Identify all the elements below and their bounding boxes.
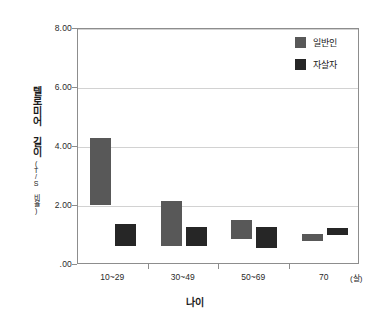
x-axis-tick-label: 30~49: [171, 272, 195, 282]
chart-legend: 일반인자살자: [295, 36, 337, 71]
x-axis-tick-label: 70: [319, 272, 328, 282]
x-axis-tick-label: 10~29: [100, 272, 124, 282]
bar-suicide-0: [115, 224, 136, 246]
legend-label: 일반인: [313, 36, 337, 49]
x-axis-tick-mark: [289, 264, 290, 269]
legend-item: 자살자: [295, 58, 337, 71]
y-axis-tick-mark: [72, 87, 77, 88]
chart-figure: .002.004.006.008.00 텔로미어 길이 (T/S 비율) 10~…: [0, 0, 389, 333]
y-axis-title-unit: (T/S 비율): [32, 160, 39, 214]
y-axis-title: 텔로미어 길이 (T/S 비율): [28, 86, 44, 214]
x-axis-tick-mark: [218, 264, 219, 269]
gridline: [78, 88, 358, 89]
y-axis-tick-label: 8.00: [38, 23, 72, 33]
y-axis-tick-mark: [72, 264, 77, 265]
bar-suicide-1: [186, 227, 207, 246]
y-axis-tick-mark: [72, 28, 77, 29]
y-axis-title-main: 텔로미어 길이: [31, 86, 41, 157]
y-axis-tick-label: .00: [38, 259, 72, 269]
x-axis-tick-label: 50~69: [241, 272, 265, 282]
bar-general-0: [90, 138, 111, 205]
legend-swatch-icon: [295, 59, 306, 70]
x-axis-tick-mark: [148, 264, 149, 269]
legend-item: 일반인: [295, 36, 337, 49]
x-axis-title: 나이: [0, 294, 389, 309]
x-axis-unit-label: (살): [350, 272, 362, 283]
legend-label: 자살자: [313, 58, 337, 71]
y-axis-tick-mark: [72, 146, 77, 147]
bar-general-3: [302, 234, 323, 241]
y-axis-tick-mark: [72, 205, 77, 206]
gridline: [78, 29, 358, 30]
bar-general-1: [161, 201, 182, 246]
gridline: [78, 206, 358, 207]
bar-general-2: [231, 220, 252, 239]
gridline: [78, 147, 358, 148]
bar-suicide-3: [327, 228, 348, 234]
legend-swatch-icon: [295, 37, 306, 48]
bar-suicide-2: [256, 227, 277, 248]
